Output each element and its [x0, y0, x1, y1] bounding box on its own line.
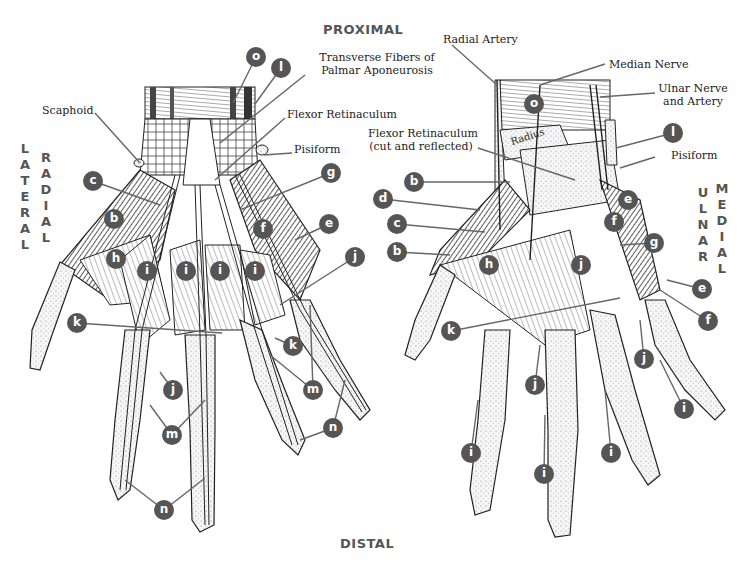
badge-f: f: [604, 212, 624, 232]
badge-h: h: [479, 255, 499, 275]
badge-k: k: [283, 336, 303, 356]
badge-j: j: [163, 380, 183, 400]
badge-l: l: [271, 58, 291, 78]
badge-j: j: [634, 349, 654, 369]
label-radial-artery: Radial Artery: [443, 33, 518, 46]
orientation-distal: DISTAL: [340, 536, 394, 551]
badge-i: i: [137, 261, 157, 281]
badge-j: j: [345, 247, 365, 267]
label-pisiform-left: Pisiform: [294, 143, 340, 156]
badge-i: i: [245, 261, 265, 281]
badge-g: g: [644, 233, 664, 253]
badge-n: n: [154, 500, 174, 520]
badge-e: e: [692, 279, 712, 299]
hand-illustrations: [0, 0, 748, 570]
badge-b: b: [104, 209, 124, 229]
badge-b: b: [404, 172, 424, 192]
badge-b: b: [387, 242, 407, 262]
badge-i: i: [601, 443, 621, 463]
label-flexor-retinaculum-cut-line1: Flexor Retinaculum: [368, 127, 474, 140]
orientation-proximal: PROXIMAL: [323, 22, 403, 37]
badge-c: c: [387, 214, 407, 234]
badge-j: j: [525, 375, 545, 395]
badge-k: k: [67, 313, 87, 333]
badge-m: m: [162, 425, 182, 445]
label-scaphoid: Scaphoid: [42, 104, 94, 117]
badge-h: h: [106, 249, 126, 269]
badge-i: i: [461, 443, 481, 463]
badge-j: j: [571, 255, 591, 275]
badge-n: n: [323, 418, 343, 438]
badge-f: f: [698, 311, 718, 331]
label-pisiform-right: Pisiform: [671, 149, 717, 162]
badge-i: i: [210, 261, 230, 281]
badge-o: o: [246, 47, 266, 67]
badge-l: l: [663, 123, 683, 143]
label-ulnar-nerve-line2: and Artery: [656, 95, 730, 108]
badge-d: d: [373, 189, 393, 209]
label-ulnar-nerve-line1: Ulnar Nerve: [656, 82, 730, 95]
badge-k: k: [441, 321, 461, 341]
badge-o: o: [524, 94, 544, 114]
label-transverse-fibers-line1: Transverse Fibers of: [312, 51, 442, 64]
label-ulnar-nerve-artery: Ulnar Nerve and Artery: [656, 82, 730, 108]
orientation-lateral: LATERAL: [18, 141, 32, 253]
badge-f: f: [253, 219, 273, 239]
badge-i: i: [176, 261, 196, 281]
label-flexor-retinaculum-cut-line2: (cut and reflected): [368, 140, 474, 153]
badge-e: e: [618, 190, 638, 210]
badge-i: i: [534, 464, 554, 484]
label-flexor-retinaculum: Flexor Retinaculum: [287, 108, 397, 121]
badge-i: i: [674, 399, 694, 419]
orientation-radial: RADIAL: [39, 150, 53, 246]
badge-c: c: [83, 171, 103, 191]
orientation-medial: MEDIAL: [715, 181, 729, 277]
orientation-ulnar: ULNAR: [696, 185, 710, 265]
label-transverse-fibers-line2: Palmar Aponeurosis: [312, 64, 442, 77]
badge-g: g: [321, 163, 341, 183]
label-transverse-fibers: Transverse Fibers of Palmar Aponeurosis: [312, 51, 442, 77]
badge-e: e: [319, 214, 339, 234]
badge-m: m: [303, 380, 323, 400]
label-flexor-retinaculum-cut: Flexor Retinaculum (cut and reflected): [368, 127, 474, 153]
label-median-nerve: Median Nerve: [609, 58, 689, 71]
hand-anatomy-diagram: PROXIMAL DISTAL LATERAL RADIAL ULNAR MED…: [0, 0, 748, 570]
